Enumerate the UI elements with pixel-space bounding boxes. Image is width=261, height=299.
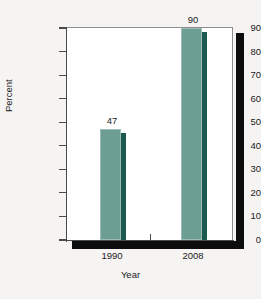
y-tick-mark [59,75,66,76]
bar-chart-figure: 0102030405060708090 4790 19902008 Year P… [0,0,261,299]
bar-front-face [100,129,121,240]
y-tick-mark [59,27,66,28]
y-tick-mark [59,239,66,240]
y-tick-label: 70 [209,70,261,79]
y-tick-label: 20 [209,188,261,197]
y-tick-label: 0 [209,235,261,244]
x-tick-label: 1990 [82,250,142,261]
y-tick-label: 60 [209,94,261,103]
y-tick-mark [59,51,66,52]
y-tick-mark [59,216,66,217]
y-tick-label: 40 [209,141,261,150]
y-tick-label: 10 [209,211,261,220]
y-tick-label: 50 [209,117,261,126]
y-tick-mark [59,145,66,146]
x-tick-label: 2008 [163,250,223,261]
y-tick-mark [59,98,66,99]
bar [181,28,202,240]
bar-value-label: 90 [163,14,223,25]
bar-side-face [121,133,126,240]
x-axis-title: Year [0,269,261,280]
y-tick-mark [59,192,66,193]
y-tick-mark [59,169,66,170]
y-tick-label: 30 [209,164,261,173]
bar-front-face [181,28,202,240]
bar [100,129,121,240]
x-tick-separator [150,234,151,241]
bar-value-label: 47 [82,115,142,126]
y-tick-label: 80 [209,47,261,56]
y-tick-mark [59,122,66,123]
bar-side-face [202,32,207,240]
y-axis-line [66,27,67,242]
y-axis-title: Percent [3,79,14,112]
plot-area-frame [66,27,233,241]
